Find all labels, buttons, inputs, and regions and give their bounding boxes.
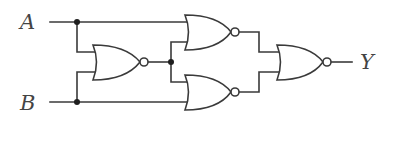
wire-g2-to-g4 xyxy=(239,32,281,52)
nor-gate-g4 xyxy=(277,45,331,80)
input-label-b: B xyxy=(19,91,35,115)
input-label-a: A xyxy=(18,10,35,34)
inverter-bubble-g2 xyxy=(231,28,239,36)
inverter-bubble-g3 xyxy=(231,88,239,96)
junction-dot-a xyxy=(74,19,80,25)
output-label-y: Y xyxy=(360,50,376,74)
wire-g3-to-g4 xyxy=(239,72,281,92)
inverter-bubble-g1 xyxy=(140,58,148,66)
junction-dot-b xyxy=(74,99,80,105)
junction-dot-g1 xyxy=(168,59,174,65)
inverter-bubble-g4 xyxy=(323,58,331,66)
nor-gate-g2 xyxy=(185,15,239,50)
nor-gate-g3 xyxy=(185,75,239,110)
nor-gate-g1 xyxy=(93,45,148,80)
logic-circuit-diagram: A B Y xyxy=(0,0,394,141)
